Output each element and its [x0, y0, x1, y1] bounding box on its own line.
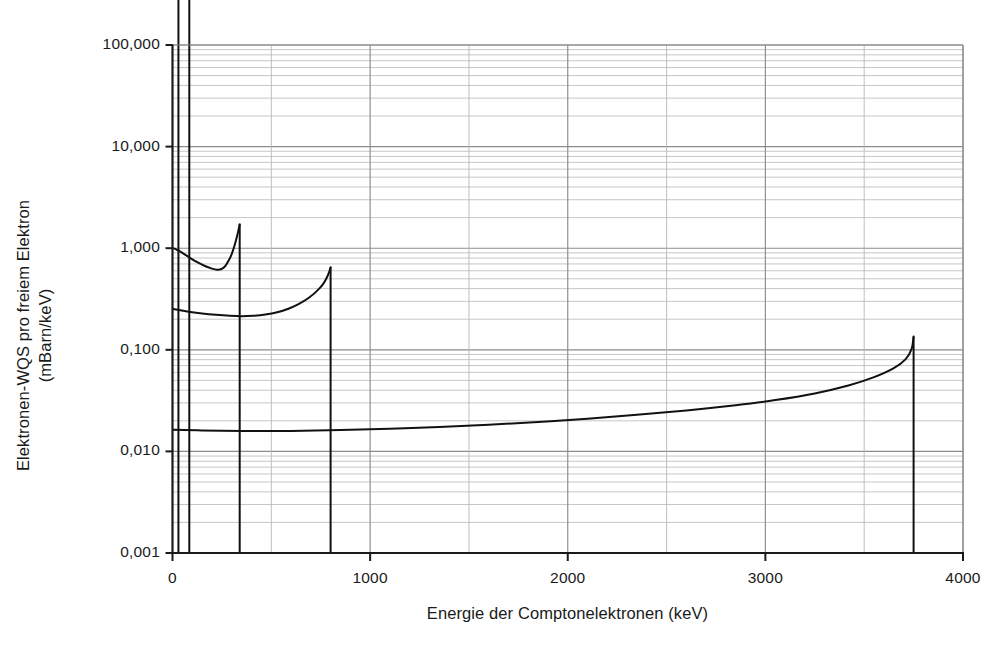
x-tick-label: 4000: [945, 569, 980, 587]
compton-spectrum-figure: Elektronen-WQS pro freiem Elektron (mBar…: [0, 0, 996, 671]
x-tick-label: 2000: [550, 569, 585, 587]
x-tick-label-group: 01000200030004000: [0, 0, 996, 671]
x-tick-label: 1000: [352, 569, 387, 587]
x-tick-label: 3000: [748, 569, 783, 587]
x-tick-label: 0: [168, 569, 177, 587]
x-axis-title: Energie der Comptonelektronen (keV): [172, 604, 963, 623]
